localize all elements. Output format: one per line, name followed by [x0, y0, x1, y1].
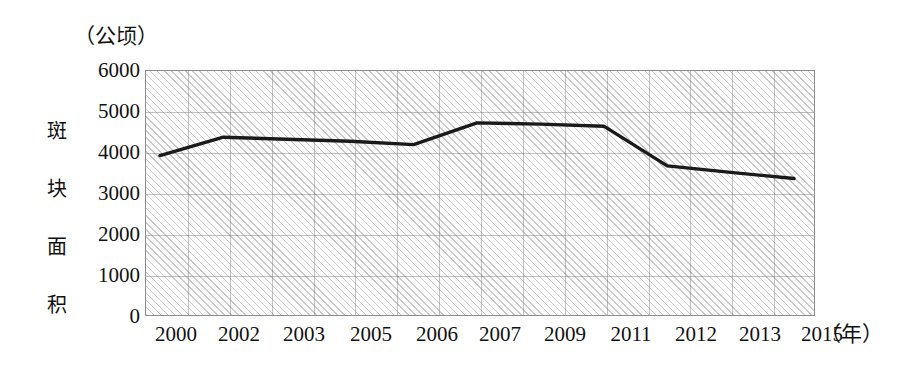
y-tick-label: 1000 — [62, 265, 140, 286]
series-line-patch-area — [160, 123, 794, 179]
data-series-layer — [146, 71, 814, 316]
x-axis-tick-labels: 2000 2002 2003 2005 2006 2007 2009 2011 … — [0, 322, 903, 356]
x-tick-label: 2000 — [155, 322, 197, 346]
x-tick-label: 2013 — [739, 322, 781, 346]
y-tick-label: 4000 — [62, 142, 140, 163]
y-tick-label: 5000 — [62, 101, 140, 122]
x-tick-label: 2003 — [283, 322, 325, 346]
y-tick-label: 3000 — [62, 183, 140, 204]
x-tick-label: 2002 — [218, 322, 260, 346]
x-tick-label: 2009 — [544, 322, 586, 346]
y-axis-tick-labels: 6000 5000 4000 3000 2000 1000 0 — [62, 0, 140, 369]
x-tick-label: 2005 — [350, 322, 392, 346]
x-tick-label: 2007 — [479, 322, 521, 346]
plot-area — [145, 70, 815, 316]
chart-figure: （公顷） 斑 块 面 积 6000 5000 4000 3000 2000 10… — [0, 0, 903, 369]
y-tick-label: 2000 — [62, 224, 140, 245]
x-tick-label: 2012 — [675, 322, 717, 346]
x-tick-label: 2011 — [610, 322, 651, 346]
x-tick-label: 2006 — [416, 322, 458, 346]
y-tick-label: 6000 — [62, 60, 140, 81]
x-axis-unit-label: （年） — [820, 322, 883, 346]
